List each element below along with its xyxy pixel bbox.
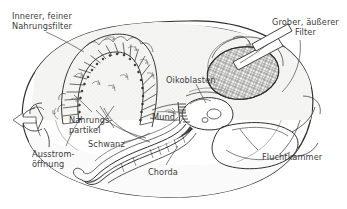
label-outflow-opening: Ausstrom- öffnung — [32, 150, 75, 169]
label-food-particles-line2: partikel — [69, 126, 112, 136]
label-inner-filter: Innerer, feiner Nahrungsfilter — [12, 12, 72, 31]
label-food-particles: Nahrungs- partikel — [69, 116, 112, 135]
label-tail: Schwanz — [88, 140, 125, 150]
label-tail-line1: Schwanz — [88, 140, 125, 150]
label-oikoblasts: Oikoblasten — [166, 76, 215, 86]
label-escape-chamber-line1: Fluchtkammer — [262, 153, 322, 163]
figure-canvas: Innerer, feiner Nahrungsfilter Grober, ä… — [0, 0, 347, 209]
label-oikoblasts-line1: Oikoblasten — [166, 76, 215, 86]
label-outflow-opening-line2: öffnung — [32, 160, 75, 170]
label-coarse-filter-line2: Filter — [272, 28, 339, 38]
label-notochord-line1: Chorda — [148, 168, 178, 178]
label-coarse-filter: Grober, äußerer Filter — [272, 18, 339, 37]
label-mouth-line1: Mund — [152, 113, 175, 123]
label-inner-filter-line2: Nahrungsfilter — [12, 22, 72, 32]
label-escape-chamber: Fluchtkammer — [262, 153, 322, 163]
label-mouth: Mund — [152, 113, 175, 123]
label-notochord: Chorda — [148, 168, 178, 178]
